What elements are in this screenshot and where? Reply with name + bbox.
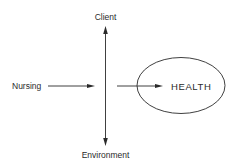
nursing-label: Nursing <box>12 81 42 91</box>
health-arrow <box>117 84 163 88</box>
health-label: HEALTH <box>171 81 211 92</box>
client-label: Client <box>95 12 117 22</box>
arrow-right-icon <box>87 84 95 88</box>
arrow-right-icon <box>155 84 163 88</box>
arrow-up-icon <box>103 26 108 34</box>
nursing-arrow <box>48 84 95 88</box>
arrow-down-icon <box>103 138 108 146</box>
client-environment-axis <box>103 26 108 146</box>
environment-label: Environment <box>82 150 130 160</box>
nursing-health-diagram: Client Nursing HEALTH Environment <box>0 0 237 166</box>
